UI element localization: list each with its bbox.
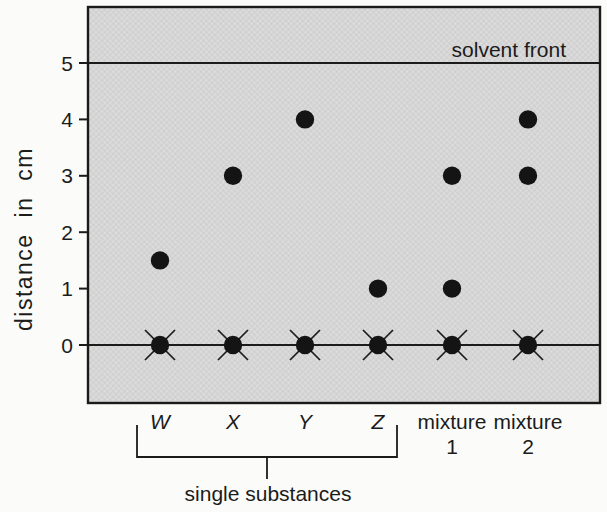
y-tick-label: 1 bbox=[61, 277, 73, 300]
origin-spot bbox=[296, 336, 314, 354]
y-tick-label: 3 bbox=[61, 164, 73, 187]
lane-label: Z bbox=[371, 410, 386, 433]
bracket-label: single substances bbox=[185, 482, 352, 505]
substance-spot bbox=[151, 251, 169, 269]
substance-spot bbox=[224, 167, 242, 185]
lane-label: X bbox=[225, 410, 241, 433]
substance-spot bbox=[443, 167, 461, 185]
substance-spot bbox=[443, 279, 461, 297]
chromatogram-canvas: 012345 WXYZmixture1mixture2 distance in … bbox=[0, 0, 607, 512]
lane-label: mixture bbox=[494, 410, 563, 433]
y-axis: 012345 bbox=[61, 52, 89, 357]
lane-label-line2: 1 bbox=[446, 435, 458, 458]
lane-label-line2: 2 bbox=[522, 435, 534, 458]
y-tick-label: 5 bbox=[61, 52, 73, 75]
substance-spot bbox=[296, 110, 314, 128]
chromatogram-figure: 012345 WXYZmixture1mixture2 distance in … bbox=[0, 0, 607, 512]
origin-spot bbox=[369, 336, 387, 354]
origin-spot bbox=[443, 336, 461, 354]
y-axis-title: distance in cm bbox=[11, 147, 37, 331]
bracket-path bbox=[137, 425, 397, 479]
y-tick-label: 2 bbox=[61, 221, 73, 244]
y-tick-label: 4 bbox=[61, 108, 73, 131]
substance-spot bbox=[369, 279, 387, 297]
y-tick-label: 0 bbox=[61, 334, 73, 357]
solvent-front-label: solvent front bbox=[452, 38, 567, 61]
substance-spot bbox=[519, 167, 537, 185]
substance-spot bbox=[519, 110, 537, 128]
lane-label: mixture bbox=[418, 410, 487, 433]
origin-spot bbox=[151, 336, 169, 354]
single-substances-bracket bbox=[137, 425, 397, 479]
lane-label: W bbox=[150, 410, 172, 433]
origin-spot bbox=[224, 336, 242, 354]
origin-spot bbox=[519, 336, 537, 354]
lane-label: Y bbox=[298, 410, 314, 433]
